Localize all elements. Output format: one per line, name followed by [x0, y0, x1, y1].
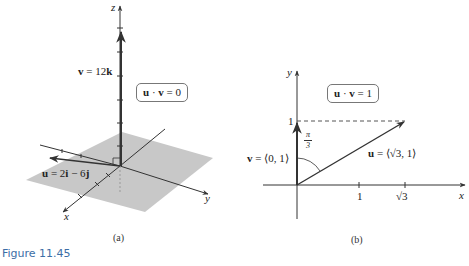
- dot-product-box-b: u · v = 1: [327, 84, 379, 103]
- u-eq: = 2: [48, 167, 65, 179]
- vector-v-label-b: v = ⟨0, 1⟩: [247, 153, 289, 164]
- u-minus: − 6: [68, 167, 85, 179]
- angle-label-pi-over-3: π 3: [304, 131, 312, 150]
- dot-product-box-a: u · v = 0: [136, 83, 188, 102]
- tick-label-y1: 1: [288, 116, 294, 127]
- y-axis-label-b: y: [287, 67, 292, 78]
- angle-arc: [297, 158, 320, 171]
- k-symbol: k: [106, 65, 112, 77]
- y-axis-label-a: y: [205, 193, 210, 204]
- u-eq-b: = ⟨√3, 1⟩: [374, 147, 416, 159]
- vector-u-label-a: u = 2i − 6j: [42, 168, 89, 179]
- panel-a-graphic: [26, 6, 213, 212]
- x-axis-label-a: x: [64, 211, 69, 222]
- box-dot-b: ·: [340, 87, 349, 99]
- box-dot: ·: [149, 86, 158, 98]
- j-symbol: j: [86, 167, 90, 179]
- angle-num: π: [304, 131, 312, 139]
- figure-canvas: [0, 0, 469, 266]
- panel-a-sublabel: (a): [113, 232, 124, 243]
- figure-caption: Figure 11.45: [2, 247, 71, 260]
- v-eq: = 12: [84, 65, 107, 77]
- v-eq-b: = ⟨0, 1⟩: [253, 152, 289, 164]
- box-eq: = 0: [164, 86, 181, 98]
- z-axis-label: z: [111, 2, 115, 13]
- x-axis-label-b: x: [459, 190, 464, 201]
- box-eq-b: = 1: [355, 87, 372, 99]
- vector-u-label-b: u = ⟨√3, 1⟩: [368, 148, 416, 159]
- vector-v-label-a: v = 12k: [78, 66, 112, 77]
- panel-b-sublabel: (b): [351, 234, 363, 245]
- tick-label-sqrt3: √3: [396, 191, 408, 202]
- angle-den: 3: [304, 142, 312, 150]
- tick-label-x1: 1: [357, 191, 363, 202]
